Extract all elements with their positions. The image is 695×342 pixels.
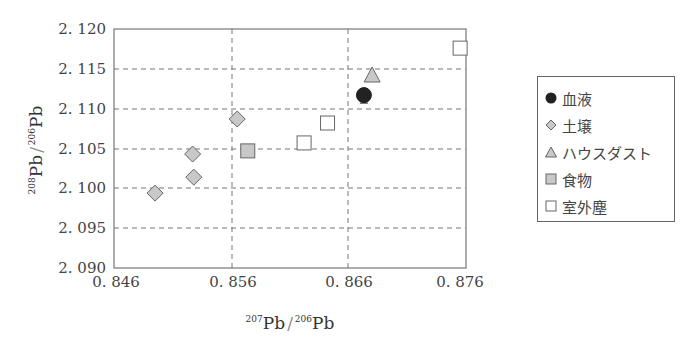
legend-item-soil: 土壌 (544, 112, 592, 138)
x-tick: 0. 866 (325, 273, 373, 291)
y-axis-ticks: 2. 120 2. 115 2. 110 2. 105 2. 100 2. 09… (58, 20, 106, 277)
y-tick: 2. 120 (58, 20, 106, 38)
x-tick: 0. 856 (209, 273, 257, 291)
data-point (356, 88, 371, 103)
y-tick: 2. 100 (58, 179, 106, 197)
open-square-icon (544, 199, 558, 213)
x-axis-ticks: 0. 846 0. 856 0. 866 0. 876 (92, 273, 484, 291)
legend-item-outdoor-dust: 室外塵 (544, 193, 607, 219)
y-tick: 2. 115 (58, 60, 106, 78)
y-tick: 2. 105 (58, 140, 106, 158)
filled-circle-icon (544, 91, 558, 105)
y-tick: 2. 110 (58, 100, 106, 118)
data-point (241, 144, 255, 158)
y-axis-label: 208Pb/206Pb (26, 106, 46, 195)
legend-label: 食物 (562, 169, 592, 190)
legend-item-blood: 血液 (544, 85, 592, 111)
legend-item-food: 食物 (544, 166, 592, 192)
x-tick: 0. 876 (436, 273, 484, 291)
legend-label: 土壌 (562, 115, 592, 136)
triangle-icon (544, 145, 558, 159)
data-point (297, 136, 311, 150)
data-point (321, 116, 335, 130)
diamond-icon (544, 118, 558, 132)
x-axis-label: 207Pb/206Pb (246, 313, 335, 333)
legend-label: 室外塵 (562, 196, 607, 217)
filled-square-icon (544, 172, 558, 186)
x-tick: 0. 846 (92, 273, 140, 291)
legend-label: ハウスダスト (562, 142, 652, 163)
legend-label: 血液 (562, 88, 592, 109)
data-point (453, 41, 467, 55)
y-tick: 2. 095 (58, 219, 106, 237)
legend: 血液 土壌 ハウスダスト 食物 室外塵 (537, 76, 675, 222)
legend-item-house-dust: ハウスダスト (544, 139, 652, 165)
